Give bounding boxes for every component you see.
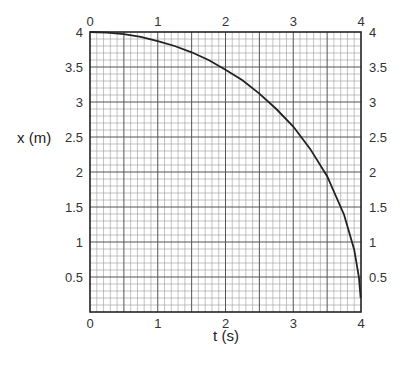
x-tick-label: 1 <box>154 14 161 29</box>
left-axis-ticks: 0.511.522.533.54 <box>65 25 83 285</box>
y-tick-label: 0.5 <box>65 270 83 285</box>
y-tick-label: 2 <box>76 165 83 180</box>
x-tick-label: 3 <box>290 316 297 331</box>
chart: 01234 01234 0.511.522.533.54 0.511.522.5… <box>0 0 404 369</box>
y-tick-label: 3 <box>76 95 83 110</box>
y-tick-label: 1.5 <box>369 200 387 215</box>
right-axis-ticks: 0.511.522.533.54 <box>369 25 387 285</box>
y-tick-label: 4 <box>369 25 376 40</box>
x-tick-label: 0 <box>86 14 93 29</box>
y-tick-label: 1.5 <box>65 200 83 215</box>
y-tick-label: 2 <box>369 165 376 180</box>
y-tick-label: 0.5 <box>369 270 387 285</box>
y-axis-label: x (m) <box>17 129 51 146</box>
y-tick-label: 1 <box>76 235 83 250</box>
top-axis-ticks: 01234 <box>86 14 364 29</box>
x-tick-label: 1 <box>154 316 161 331</box>
y-tick-label: 3.5 <box>369 60 387 75</box>
x-tick-label: 4 <box>357 316 364 331</box>
y-tick-label: 4 <box>76 25 83 40</box>
x-tick-label: 3 <box>290 14 297 29</box>
x-tick-label: 4 <box>357 14 364 29</box>
y-tick-label: 3 <box>369 95 376 110</box>
x-tick-label: 2 <box>222 14 229 29</box>
y-tick-label: 2.5 <box>369 130 387 145</box>
y-tick-label: 2.5 <box>65 130 83 145</box>
x-axis-label: t (s) <box>213 327 239 344</box>
y-tick-label: 3.5 <box>65 60 83 75</box>
y-tick-label: 1 <box>369 235 376 250</box>
x-tick-label: 0 <box>86 316 93 331</box>
